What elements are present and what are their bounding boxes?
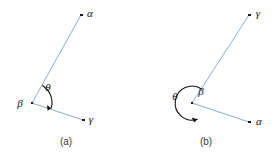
endpoint-point-alpha-a (80, 14, 83, 17)
caption-panel-a: (a) (60, 136, 72, 147)
label-alpha-a: α (87, 7, 93, 19)
label-beta-a: β (16, 97, 23, 109)
vertex-point-beta-b (191, 102, 194, 105)
angle-diagram-svg: β α γ θ (a) β γ α (0, 0, 279, 160)
label-alpha-b: α (256, 115, 262, 127)
label-theta-b: θ (172, 90, 178, 102)
label-gamma-a: γ (89, 113, 94, 125)
ray-beta-alpha-a (32, 15, 81, 103)
label-gamma-b: γ (256, 7, 261, 19)
ray-beta-alpha-b (192, 103, 249, 122)
label-theta-a: θ (45, 81, 51, 93)
endpoint-point-gamma-b (248, 14, 251, 17)
caption-panel-b: (b) (200, 136, 212, 147)
angle-arc-arrowhead-a (47, 105, 51, 111)
endpoint-point-gamma-a (82, 119, 85, 122)
endpoint-point-alpha-b (248, 121, 251, 124)
figure-container: β α γ θ (a) β γ α (0, 0, 279, 160)
label-beta-b: β (197, 85, 204, 97)
panel-b: β γ α θ (b) (172, 7, 262, 147)
ray-beta-gamma-a (32, 103, 83, 120)
vertex-point-beta-a (31, 102, 34, 105)
panel-a: β α γ θ (a) (16, 7, 94, 147)
